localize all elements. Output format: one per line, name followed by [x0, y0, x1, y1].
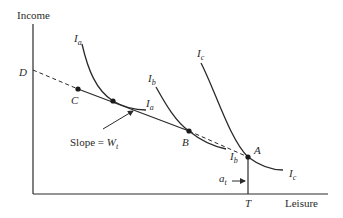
slope-label: Slope = Wt: [70, 136, 119, 151]
x-tick-label-t: T: [245, 197, 252, 209]
label-at: at: [219, 172, 228, 187]
point-b: [186, 128, 191, 133]
label-ic-top: Ic: [196, 47, 205, 62]
budget-line-solid: [78, 89, 189, 131]
budget-line-dashed-right: [189, 131, 248, 157]
label-b: B: [182, 136, 189, 148]
point-tangency-ia: [110, 98, 115, 103]
label-ic-right: Ic: [288, 167, 297, 182]
slope-arrow: [103, 111, 133, 129]
point-a: [245, 154, 250, 159]
label-ia-right: Ia: [145, 97, 154, 112]
label-d: D: [18, 66, 27, 78]
x-axis-label: Leisure: [285, 197, 318, 209]
point-c: [75, 86, 80, 91]
label-ia-top: Ia: [73, 32, 82, 47]
labor-leisure-diagram: Income Leisure T D C B A Ia Ia Ib Ib Ic …: [0, 0, 343, 218]
label-a: A: [253, 144, 261, 156]
label-ib-top: Ib: [147, 72, 156, 87]
label-c: C: [71, 94, 79, 106]
budget-line-dashed-left: [33, 70, 78, 89]
y-axis-label: Income: [17, 9, 50, 21]
